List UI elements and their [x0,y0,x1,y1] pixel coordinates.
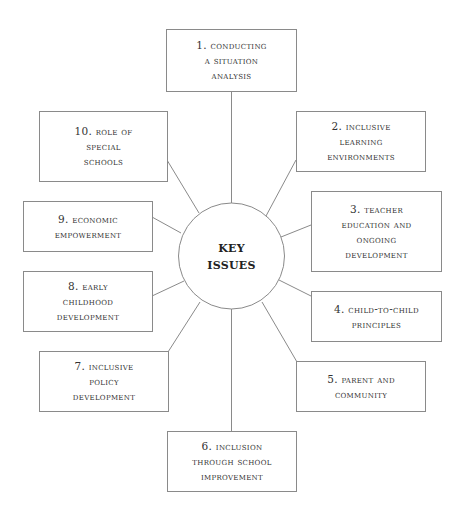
hub-label-line: ISSUES [207,257,256,274]
node-label-line: 8. Early [57,279,119,294]
node-2-inclusive-learning-environments: 2. Inclusive learning environments [296,111,426,172]
node-10-role-of-special-schools: 10. Role of special schools [39,111,168,182]
key-issues-diagram: KEY ISSUES 1. Conducting a situation ana… [0,0,462,521]
node-label-line: 2. Inclusive [327,119,395,134]
connector-9 [152,217,181,233]
node-label-line: 3. Teacher [342,202,412,217]
node-label-line: development [57,309,119,324]
node-label-line: a situation [196,53,267,68]
node-label-line: 10. Role of [74,124,132,139]
node-label-line: policy [73,374,135,389]
node-label-line: 5. Parent and [327,372,395,387]
node-label-line: principles [334,317,419,332]
node-label-line: analysis [196,68,267,83]
node-label-line: through school [192,454,271,469]
node-label-line: ongoing [342,232,412,247]
hub-key-issues: KEY ISSUES [178,203,285,310]
node-label-line: 1. Conducting [196,38,267,53]
node-label-line: special [74,139,132,154]
node-6-inclusion-through-school-improvement: 6. Inclusion through school improvement [167,431,297,492]
node-label-line: learning [327,134,395,149]
node-label-line: empowerment [55,227,122,242]
node-label-line: development [342,247,412,262]
node-7-inclusive-policy-development: 7. Inclusive policy development [39,351,169,412]
node-label-line: development [73,389,135,404]
node-label-line: childhood [57,294,119,309]
node-label-line: education and [342,217,412,232]
node-3-teacher-education: 3. Teacher education and ongoing develop… [311,191,442,272]
node-8-early-childhood-development: 8. Early childhood development [23,271,153,332]
node-label-line: schools [74,154,132,169]
node-label-line: 4. Child-to-child [334,302,419,317]
connector-5 [262,302,297,362]
node-label-line: environments [327,149,395,164]
node-label-line: 6. Inclusion [192,439,271,454]
node-label-line: improvement [192,469,271,484]
connector-3 [281,225,311,237]
node-5-parent-and-community: 5. Parent and community [296,361,426,412]
node-9-economic-empowerment: 9. Economic empowerment [23,201,153,252]
node-label-line: 9. Economic [55,212,122,227]
node-label-line: 7. Inclusive [73,359,135,374]
node-1-situation-analysis: 1. Conducting a situation analysis [166,29,297,92]
hub-label-line: KEY [207,240,256,257]
node-4-child-to-child: 4. Child-to-child principles [311,291,442,342]
node-label-line: community [327,387,395,402]
